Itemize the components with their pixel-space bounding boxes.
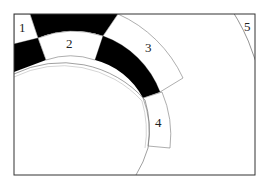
label-1: 1 [19,20,26,35]
label-5: 5 [244,19,251,34]
label-4: 4 [155,115,162,130]
label-2: 2 [66,36,73,51]
label-3: 3 [145,40,152,55]
diagram: 1 2 3 4 5 [0,0,266,184]
